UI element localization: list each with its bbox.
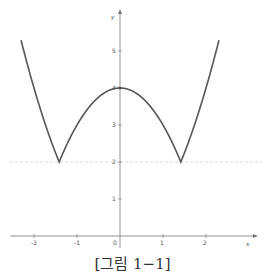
x-tick-label: -1	[74, 239, 80, 246]
y-ticks: 12345	[112, 47, 122, 202]
x-axis-label: x	[245, 240, 250, 247]
origin-label: 0	[113, 239, 117, 246]
x-tick-label: 1	[160, 239, 164, 246]
x-tick-label: 2	[203, 239, 207, 246]
y-tick-label: 4	[112, 84, 116, 91]
x-axis-arrow-icon	[253, 234, 258, 238]
y-axis-label: y	[110, 13, 115, 21]
x-tick-label: -2	[31, 239, 37, 246]
y-axis-arrow-icon	[118, 9, 122, 14]
y-tick-label: 2	[112, 158, 116, 165]
y-tick-label: 1	[112, 195, 116, 202]
y-intercept-point	[119, 87, 122, 90]
y-tick-label: 3	[112, 121, 116, 128]
y-tick-label: 5	[112, 47, 116, 54]
figure-caption: [그림 1−1]	[0, 252, 265, 273]
function-graph: -2-112 12345 0 x y	[0, 0, 265, 250]
